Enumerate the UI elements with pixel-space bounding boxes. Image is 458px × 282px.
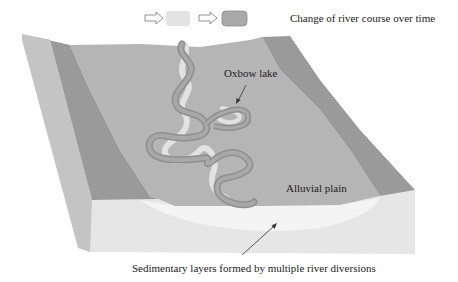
hollow-arrow-icon xyxy=(145,12,163,24)
terrain-block xyxy=(22,34,415,254)
legend-swatch-new-channel xyxy=(222,11,247,26)
legend-label: Change of river course over time xyxy=(290,12,435,24)
alluvial-plain-label: Alluvial plain xyxy=(286,182,347,194)
river-landscape-diagram xyxy=(0,0,458,282)
hollow-arrow-icon xyxy=(199,12,217,24)
legend-graphics xyxy=(145,11,247,26)
legend-swatch-old-channel xyxy=(166,11,190,26)
sedimentary-layers-label: Sedimentary layers formed by multiple ri… xyxy=(132,262,376,274)
oxbow-lake-label: Oxbow lake xyxy=(224,67,277,79)
